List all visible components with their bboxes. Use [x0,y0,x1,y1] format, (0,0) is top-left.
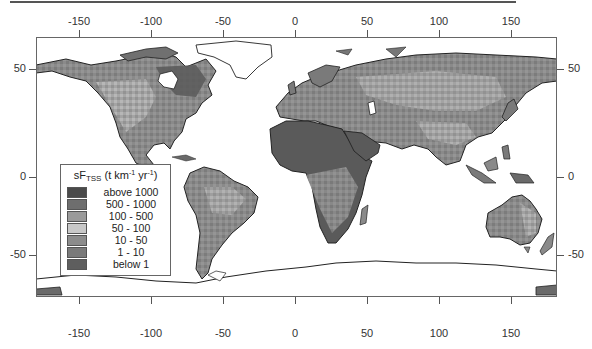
legend-item: 50 - 100 [67,223,167,234]
legend-item: 100 - 500 [67,211,167,222]
x-tick-mark [439,297,440,304]
legend-label: 50 - 100 [95,222,167,234]
x-tick-label-top: -100 [140,15,162,27]
y-tick-label-right: 0 [568,170,574,182]
legend-item: 1 - 10 [67,247,167,258]
legend-item: below 1 [67,259,167,270]
legend-title-units: (t km [101,169,129,181]
x-tick-label-top: 0 [292,15,298,27]
legend-swatch [67,259,87,270]
map-legend: sFTSS (t km-1 yr-1) above 1000 500 - 100… [60,164,171,276]
y-tick-label-left: -50 [2,248,26,260]
x-tick-mark [367,297,368,304]
y-tick-mark [557,69,564,70]
legend-title-subscript: TSS [86,174,102,183]
x-tick-label-top: 50 [361,15,373,27]
x-tick-mark [295,30,296,37]
x-tick-mark [511,297,512,304]
legend-swatch [67,187,87,198]
x-tick-label-bottom: 50 [361,327,373,339]
legend-label: 100 - 500 [95,210,167,222]
y-tick-mark [29,177,36,178]
x-tick-label-bottom: -50 [215,327,231,339]
y-tick-mark [29,255,36,256]
x-tick-label-top: 150 [502,15,520,27]
x-tick-mark [223,297,224,304]
y-tick-mark [29,69,36,70]
x-tick-mark [295,297,296,304]
x-tick-mark [367,30,368,37]
figure-top-rule [10,1,516,3]
legend-title-units: yr [135,169,147,181]
legend-swatch [67,235,87,246]
legend-label: 500 - 1000 [95,198,167,210]
x-tick-label-bottom: -100 [140,327,162,339]
legend-label: below 1 [95,258,167,270]
x-tick-mark [223,30,224,37]
legend-title-units: ) [154,169,158,181]
y-tick-mark [557,255,564,256]
y-tick-label-right: 50 [568,62,580,74]
y-tick-label-left: 50 [2,62,26,74]
x-tick-mark [79,30,80,37]
legend-item: 500 - 1000 [67,199,167,210]
x-tick-mark [511,30,512,37]
x-tick-mark [151,30,152,37]
x-tick-label-top: 100 [430,15,448,27]
x-tick-label-bottom: 150 [502,327,520,339]
legend-swatch [67,223,87,234]
x-tick-label-bottom: -150 [68,327,90,339]
x-tick-label-top: -150 [68,15,90,27]
x-tick-label-bottom: 100 [430,327,448,339]
legend-item: above 1000 [67,187,167,198]
legend-title: sFTSS (t km-1 yr-1) [61,169,170,183]
legend-swatch [67,199,87,210]
legend-swatch [67,247,87,258]
x-tick-mark [439,30,440,37]
x-tick-label-top: -50 [215,15,231,27]
x-tick-mark [79,297,80,304]
legend-label: 1 - 10 [95,246,167,258]
y-tick-label-right: -50 [568,248,584,260]
legend-item: 10 - 50 [67,235,167,246]
x-tick-mark [151,297,152,304]
x-tick-label-bottom: 0 [292,327,298,339]
legend-label: above 1000 [95,186,167,198]
legend-title-var: sF [74,169,86,181]
legend-label: 10 - 50 [95,234,167,246]
y-tick-label-left: 0 [2,170,26,182]
y-tick-mark [557,177,564,178]
legend-swatch [67,211,87,222]
